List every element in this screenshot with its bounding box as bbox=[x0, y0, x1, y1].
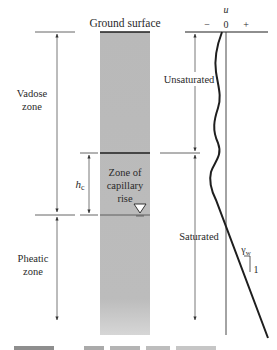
slope-label: γw bbox=[240, 244, 251, 257]
capillary-label-2: capillary bbox=[107, 180, 144, 191]
unsaturated-label: Unsaturated bbox=[164, 74, 215, 85]
caption-truncated bbox=[14, 346, 216, 350]
slope-triangle bbox=[244, 256, 250, 272]
slope-run-label: 1 bbox=[254, 264, 259, 275]
pheatic-label-2: zone bbox=[23, 266, 43, 277]
groundwater-zone-diagram: Ground surface Zone of capillary rise Va… bbox=[0, 0, 277, 350]
axis-plus: + bbox=[243, 19, 249, 30]
axis-zero: 0 bbox=[224, 19, 229, 30]
ground-surface-label: Ground surface bbox=[89, 17, 160, 29]
axis-minus: − bbox=[204, 19, 210, 30]
saturated-label: Saturated bbox=[179, 231, 219, 242]
vadose-label-2: zone bbox=[22, 101, 42, 112]
capillary-label-3: rise bbox=[117, 193, 133, 204]
axis-variable-u: u bbox=[224, 4, 229, 15]
capillary-label-1: Zone of bbox=[109, 167, 142, 178]
vadose-label-1: Vadose bbox=[17, 88, 48, 99]
pheatic-label-1: Pheatic bbox=[18, 253, 49, 264]
hc-label: hc bbox=[75, 178, 85, 192]
